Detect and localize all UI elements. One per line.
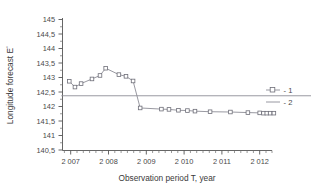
series-1-data-point xyxy=(117,73,121,77)
y-axis-title-text: Longitude forecast E xyxy=(5,48,15,125)
y-tick-label: 141,5 xyxy=(37,117,56,126)
series-1-markers xyxy=(67,66,275,115)
y-tick-label: 143,5 xyxy=(37,59,56,68)
series-1-data-point xyxy=(167,108,171,112)
series-1-data-point xyxy=(98,74,102,78)
series-1-data-point xyxy=(177,108,181,112)
chart-figure: 145 144,5 144 143,5 143 142,5 142 141,5 … xyxy=(0,0,311,191)
x-tick-label: 2 009 xyxy=(137,157,156,166)
y-tick-label: 140,5 xyxy=(37,146,56,155)
series-1-data-point xyxy=(131,79,135,83)
series-1-data-point xyxy=(138,106,142,110)
x-tick-label: 2 012 xyxy=(250,157,269,166)
series-1-data-point xyxy=(104,66,108,70)
x-tick-label: 2 007 xyxy=(61,157,80,166)
series-1-data-point xyxy=(73,85,77,89)
legend-label-1: - 1 xyxy=(284,86,293,95)
y-tick-label: 144 xyxy=(43,44,55,53)
x-tick-label: 2 011 xyxy=(213,157,231,166)
series-1-data-point xyxy=(229,110,233,114)
x-axis-title: Observation period T, year xyxy=(118,173,215,183)
series-1-data-point xyxy=(258,111,262,115)
y-tick-label: 142,5 xyxy=(37,88,56,97)
y-tick-label: 142 xyxy=(43,102,55,111)
series-1-data-point xyxy=(79,82,83,86)
x-tick-label: 2 008 xyxy=(99,157,118,166)
series-1-data-point xyxy=(193,109,197,113)
series-1-data-point xyxy=(90,77,94,81)
degree-symbol: ° xyxy=(5,46,11,48)
series-1-data-point xyxy=(246,111,250,115)
x-tick-label: 2 010 xyxy=(175,157,194,166)
y-tick-label: 143 xyxy=(43,73,55,82)
series-1-data-point xyxy=(67,79,71,83)
legend-label-2: - 2 xyxy=(284,98,293,107)
legend-entry-2[interactable]: - 2 xyxy=(266,98,292,107)
y-tick-label: 144,5 xyxy=(37,30,56,39)
series-1-data-point xyxy=(186,109,190,113)
series-1-data-point xyxy=(160,107,164,111)
line-chart: 145 144,5 144 143,5 143 142,5 142 141,5 … xyxy=(0,0,311,191)
y-axis-ticks: 145 144,5 144 143,5 143 142,5 142 141,5 … xyxy=(37,15,63,155)
legend-marker-square-icon xyxy=(270,87,275,92)
y-axis-title: Longitude forecast E° xyxy=(5,46,15,124)
series-1-data-point xyxy=(124,75,128,79)
y-tick-label: 141 xyxy=(43,131,55,140)
series-1-data-point xyxy=(208,110,212,114)
series-1-data-point xyxy=(272,111,276,115)
y-tick-label: 145 xyxy=(43,15,55,24)
legend-entry-1[interactable]: - 1 xyxy=(266,86,292,95)
series-1-data-point xyxy=(268,111,272,115)
